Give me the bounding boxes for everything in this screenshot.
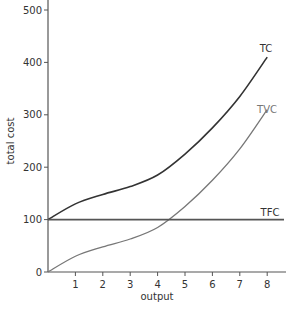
x-tick-label: 8 [264, 279, 270, 290]
y-tick-label: 0 [36, 267, 42, 278]
axes: 010020030040050012345678 [23, 0, 286, 290]
y-tick-label: 300 [23, 109, 42, 120]
x-axis-label: output [141, 291, 174, 302]
curve-tvc [48, 110, 267, 272]
y-tick-label: 500 [23, 5, 42, 16]
y-tick-label: 100 [23, 214, 42, 225]
x-tick-label: 3 [127, 279, 133, 290]
x-tick-label: 7 [237, 279, 243, 290]
curves [48, 57, 284, 272]
label-tvc: TVC [256, 104, 277, 115]
x-tick-label: 6 [209, 279, 215, 290]
x-tick-label: 4 [154, 279, 160, 290]
curve-tc [48, 57, 267, 219]
chart-canvas: 010020030040050012345678 TCTVCTFC output… [0, 0, 292, 310]
label-tc: TC [259, 43, 273, 54]
y-tick-label: 200 [23, 162, 42, 173]
total-cost-chart: 010020030040050012345678 TCTVCTFC output… [0, 0, 292, 310]
y-axis-label: total cost [5, 118, 16, 165]
y-tick-label: 400 [23, 57, 42, 68]
x-tick-label: 1 [72, 279, 78, 290]
label-tfc: TFC [260, 207, 280, 218]
x-tick-label: 2 [100, 279, 106, 290]
x-tick-label: 5 [182, 279, 188, 290]
